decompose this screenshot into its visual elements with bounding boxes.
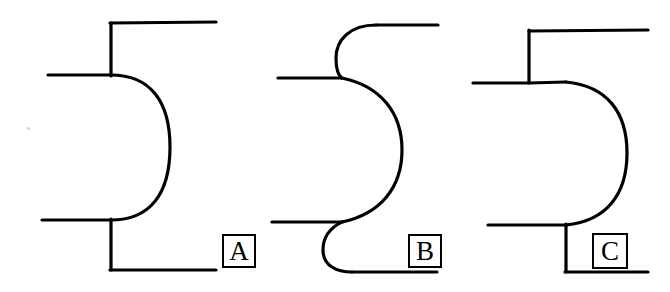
panel-label-text-b: B	[416, 238, 434, 265]
panel-label-box-c: C	[592, 233, 628, 269]
panel-c-large-arc	[566, 82, 627, 225]
scan-speck	[27, 127, 30, 130]
panel-c-upper-shoulder-lead	[529, 82, 566, 83]
panel-label-text-a: A	[229, 238, 249, 265]
panel-b-upper-s-transition	[336, 25, 376, 78]
panel-b-lower-s-transition	[323, 222, 352, 272]
panel-c-upper-top-lead	[529, 30, 648, 31]
panel-b-main-arc	[342, 78, 402, 222]
figure-container: A B C	[0, 0, 670, 292]
panel-label-box-b: B	[408, 234, 442, 268]
panel-label-box-a: A	[222, 234, 256, 268]
panel-a-upper-top-lead	[110, 22, 216, 23]
line-drawing-canvas	[0, 0, 670, 292]
panel-label-text-c: C	[601, 238, 619, 265]
panel-a-drawing	[42, 22, 216, 270]
panel-a-semicircular-arc	[111, 75, 170, 220]
